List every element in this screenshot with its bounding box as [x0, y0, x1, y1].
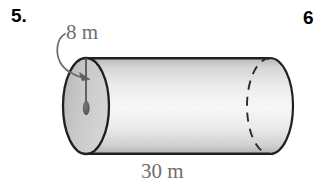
worksheet-figure-page: 5. 6: [0, 0, 319, 192]
radius-dimension-label: 8 m: [66, 20, 98, 45]
length-dimension-label: 30 m: [141, 159, 184, 184]
center-dot: [83, 101, 90, 115]
